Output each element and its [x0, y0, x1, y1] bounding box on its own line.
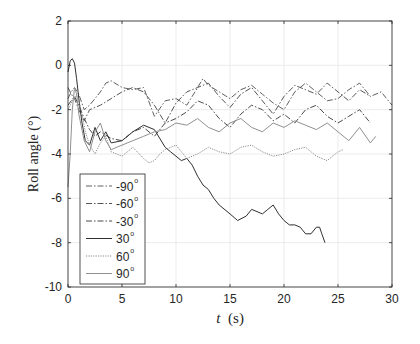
x-axis-label-var: t — [216, 310, 221, 326]
x-axis-label: t (s) — [216, 310, 244, 327]
legend-degree-sup: o — [130, 230, 134, 237]
y-axis-label: Roll angle (°) — [26, 115, 42, 192]
x-tick-label: 25 — [331, 292, 345, 306]
legend-label: 30 — [116, 232, 130, 246]
x-tick-label: 30 — [385, 292, 399, 306]
x-tick-label: 15 — [223, 292, 237, 306]
y-tick-label: -6 — [51, 191, 62, 205]
legend-box — [80, 174, 145, 284]
x-tick-label: 10 — [169, 292, 183, 306]
legend-label: 90 — [116, 267, 130, 281]
legend-degree-sup: o — [134, 195, 138, 202]
y-tick-label: -10 — [45, 280, 63, 294]
y-tick-label: 2 — [55, 14, 62, 28]
series-line-2 — [68, 83, 370, 123]
legend: -90o-60o-30o30o60o90o — [80, 174, 145, 284]
legend-degree-sup: o — [130, 265, 134, 272]
x-tick-label: 5 — [119, 292, 126, 306]
legend-label: 60 — [116, 250, 130, 264]
legend-label: -30 — [116, 215, 134, 229]
y-tick-label: -8 — [51, 236, 62, 250]
series-line-6 — [68, 88, 376, 188]
y-tick-label: 0 — [55, 58, 62, 72]
y-tick-label: -4 — [51, 147, 62, 161]
x-tick-label: 0 — [65, 292, 72, 306]
roll-angle-chart: 051015202530 20-2-4-6-8-10 Roll angle (°… — [0, 0, 420, 344]
legend-label: -60 — [116, 197, 134, 211]
y-tick-label: -2 — [51, 103, 62, 117]
x-tick-label: 20 — [277, 292, 291, 306]
legend-degree-sup: o — [130, 247, 134, 254]
x-axis-label-unit: (s) — [228, 310, 244, 327]
legend-degree-sup: o — [134, 177, 138, 184]
series-line-3 — [68, 96, 370, 140]
legend-label: -90 — [116, 180, 134, 194]
legend-degree-sup: o — [134, 212, 138, 219]
